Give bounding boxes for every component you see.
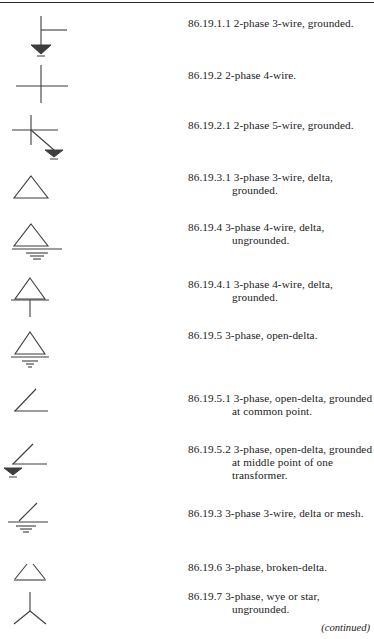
entry-text: 86.19.7 3-phase, wye or star, ungrounded… [188, 590, 374, 616]
entry-description: 3-phase, open-delta. [225, 329, 317, 341]
entry-text: 86.19.5.1 3-phase, open-delta, grounded … [188, 392, 374, 418]
entry-text: 86.19.1.1 2-phase 3-wire, grounded. [188, 17, 374, 30]
entry-description: 3-phase, wye or star, ungrounded. [225, 590, 320, 615]
entry-description: 3-phase 3-wire, delta or mesh. [225, 507, 363, 519]
header-rule [0, 2, 374, 3]
entry-number: 86.19.4.1 [188, 278, 231, 290]
entry-description: 3-phase, open-delta, grounded at middle … [232, 443, 372, 481]
symbol-broken-delta-triangle [0, 557, 120, 591]
entry-text: 86.19.3 3-phase 3-wire, delta or mesh. [188, 507, 374, 520]
entry-text: 86.19.4.1 3-phase 4-wire, delta, grounde… [188, 278, 374, 304]
symbol-reference-page: 86.19.1.1 2-phase 3-wire, grounded. 86.1… [0, 0, 374, 639]
entry-number: 86.19.3.1 [188, 171, 231, 183]
continued-note: (continued) [321, 622, 370, 633]
entry-text: 86.19.5 3-phase, open-delta. [188, 329, 374, 342]
symbol-delta-triangle-with-ground-stack [0, 327, 120, 377]
entry-text: 86.19.3.1 3-phase 3-wire, delta, grounde… [188, 171, 374, 197]
entry-number: 86.19.1.1 [188, 17, 231, 29]
symbol-plain-cross [0, 62, 120, 108]
entry-text: 86.19.6 3-phase, broken-delta. [188, 561, 374, 574]
entry-description: 3-phase, broken-delta. [225, 561, 327, 573]
entry-description: 2-phase 5-wire, grounded. [234, 119, 354, 131]
entry-text: 86.19.2.1 2-phase 5-wire, grounded. [188, 119, 374, 132]
entry-number: 86.19.4 [188, 221, 222, 233]
symbol-open-delta-angle [0, 384, 120, 430]
entry-number: 86.19.7 [188, 590, 222, 602]
entry-number: 86.19.5 [188, 329, 222, 341]
symbol-delta-triangle-with-base-ground-stack [0, 218, 120, 268]
entry-number: 86.19.5.2 [188, 443, 231, 455]
symbol-open-delta-angle-with-ground-stack [0, 499, 120, 549]
entry-number: 86.19.6 [188, 561, 222, 573]
entry-number: 86.19.5.1 [188, 392, 231, 404]
entry-description: 2-phase 3-wire, grounded. [234, 17, 354, 29]
entry-description: 3-phase 3-wire, delta, grounded. [232, 171, 333, 196]
symbol-cross-tee-with-ground-arrow [0, 14, 120, 60]
entry-description: 3-phase 4-wire, delta, grounded. [232, 278, 333, 303]
symbol-delta-triangle-with-stem [0, 273, 120, 323]
entry-number: 86.19.2 [188, 69, 222, 81]
symbol-delta-triangle [0, 168, 120, 212]
symbol-open-delta-angle-with-vertex-ground [0, 441, 120, 493]
symbol-wye-star-three-spoke [0, 589, 120, 631]
entry-text: 86.19.5.2 3-phase, open-delta, grounded … [188, 443, 374, 483]
entry-number: 86.19.2.1 [188, 119, 231, 131]
entry-text: 86.19.2 2-phase 4-wire. [188, 69, 374, 82]
entry-text: 86.19.4 3-phase 4-wire, delta, ungrounde… [188, 221, 374, 247]
entry-number: 86.19.3 [188, 507, 222, 519]
entry-description: 2-phase 4-wire. [225, 69, 296, 81]
symbol-cross-with-diagonal-ground-arrow [0, 113, 120, 165]
entry-description: 3-phase, open-delta, grounded at common … [232, 392, 372, 417]
entry-description: 3-phase 4-wire, delta, ungrounded. [225, 221, 324, 246]
